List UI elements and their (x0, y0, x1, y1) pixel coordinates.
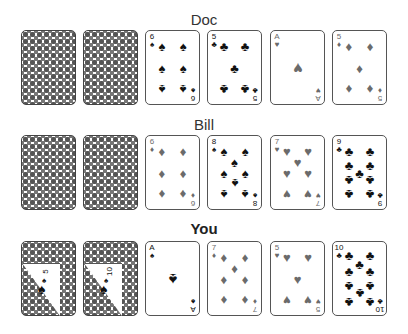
card-corner-index: A♠ (147, 244, 157, 260)
spade-icon: ♠ (176, 83, 190, 96)
spade-icon: ♠ (100, 281, 107, 297)
club-icon: ♣ (363, 144, 377, 157)
card-corner-index: A♠ (188, 297, 198, 313)
diamond-icon: ♦ (342, 83, 356, 96)
spade-icon: ♠ (238, 188, 252, 201)
diamond-icon: ♦ (342, 39, 356, 52)
heart-icon: ♥ (301, 188, 315, 201)
card-A-of-hearts[interactable]: A♥A♥♥ (270, 30, 325, 105)
card-rank: A (188, 305, 198, 313)
card-A-of-spades[interactable]: A♠A♠♠ (145, 241, 200, 316)
card-rank: 5 (41, 269, 50, 273)
hand-you: 5♠♠10♠♠A♠A♠♠7♦7♦♦♦♦♦♦♦♦5♥5♥♥♥♥♥♥10♣10♣♣♣… (0, 241, 408, 317)
card-rank: A (313, 94, 323, 102)
spade-icon: ♠ (217, 188, 231, 201)
diamond-icon: ♦ (176, 144, 190, 157)
spade-icon: ♠ (155, 83, 169, 96)
card-corner-index: A♥ (272, 33, 282, 49)
club-icon: ♣ (238, 83, 252, 96)
peeked-hole-card-1[interactable]: 5♠♠ (21, 241, 76, 316)
heart-icon: ♥ (313, 86, 323, 94)
diamond-icon: ♦ (238, 272, 252, 285)
heart-icon: ♥ (280, 188, 294, 201)
card-5-of-hearts[interactable]: 5♥5♥♥♥♥♥♥ (270, 241, 325, 316)
club-icon: ♣ (342, 295, 356, 308)
spade-icon: ♠ (155, 39, 169, 52)
diamond-icon: ♦ (353, 61, 367, 74)
spade-icon: ♠ (188, 297, 198, 305)
face-down-card-1[interactable] (21, 135, 76, 210)
heart-icon: ♥ (301, 250, 315, 263)
card-5-of-diamonds[interactable]: 5♦5♦♦♦♦♦♦ (332, 30, 387, 105)
club-icon: ♣ (342, 265, 356, 278)
heart-icon: ♥ (291, 61, 305, 74)
card-7-of-diamonds[interactable]: 7♦7♦♦♦♦♦♦♦♦ (207, 241, 262, 316)
club-icon: ♣ (342, 188, 356, 201)
hand-doc: 6♠6♠♠♠♠♠♠♠5♣5♣♣♣♣♣♣A♥A♥♥5♦5♦♦♦♦♦♦ (0, 30, 408, 106)
heart-icon: ♥ (301, 166, 315, 179)
face-down-card-1[interactable] (21, 30, 76, 105)
club-icon: ♣ (238, 39, 252, 52)
club-icon: ♣ (363, 295, 377, 308)
face-down-card-2[interactable] (83, 135, 138, 210)
diamond-icon: ♦ (155, 144, 169, 157)
heart-icon: ♥ (291, 272, 305, 285)
club-icon: ♣ (363, 173, 377, 186)
card-9-of-clubs[interactable]: 9♣9♣♣♣♣♣♣♣♣♣♣ (332, 135, 387, 210)
spade-icon: ♠ (166, 272, 180, 285)
diamond-icon: ♦ (176, 188, 190, 201)
spade-icon: ♠ (38, 281, 45, 297)
club-icon: ♣ (217, 83, 231, 96)
heart-icon: ♥ (280, 166, 294, 179)
spade-icon: ♠ (176, 39, 190, 52)
diamond-icon: ♦ (176, 166, 190, 179)
diamond-icon: ♦ (217, 272, 231, 285)
card-6-of-diamonds[interactable]: 6♦6♦♦♦♦♦♦♦ (145, 135, 200, 210)
peeked-hole-card-2[interactable]: 10♠♠ (83, 241, 138, 316)
diamond-icon: ♦ (363, 39, 377, 52)
heart-icon: ♥ (301, 294, 315, 307)
spade-icon: ♠ (147, 252, 157, 260)
hand-bill: 6♦6♦♦♦♦♦♦♦8♠8♠♠♠♠♠♠♠♠♠7♥7♥♥♥♥♥♥♥♥9♣9♣♣♣♣… (0, 135, 408, 211)
card-10-of-clubs[interactable]: 10♣10♣♣♣♣♣♣♣♣♣♣♣ (332, 241, 387, 316)
club-icon: ♣ (363, 188, 377, 201)
spade-icon: ♠ (155, 61, 169, 74)
diamond-icon: ♦ (155, 166, 169, 179)
card-8-of-spades[interactable]: 8♠8♠♠♠♠♠♠♠♠♠ (207, 135, 262, 210)
heart-icon: ♥ (280, 250, 294, 263)
face-down-card-2[interactable] (83, 30, 138, 105)
club-icon: ♣ (363, 265, 377, 278)
diamond-icon: ♦ (363, 83, 377, 96)
heart-icon: ♥ (272, 41, 282, 49)
spade-icon: ♠ (176, 61, 190, 74)
player-name-doc: Doc (0, 11, 408, 28)
diamond-icon: ♦ (155, 188, 169, 201)
player-name-you: You (0, 220, 408, 237)
card-rank: 10 (105, 267, 114, 276)
diamond-icon: ♦ (238, 294, 252, 307)
diamond-icon: ♦ (217, 294, 231, 307)
card-6-of-spades[interactable]: 6♠6♠♠♠♠♠♠♠ (145, 30, 200, 105)
card-7-of-hearts[interactable]: 7♥7♥♥♥♥♥♥♥♥ (270, 135, 325, 210)
club-icon: ♣ (217, 39, 231, 52)
player-name-bill: Bill (0, 116, 408, 133)
club-icon: ♣ (228, 61, 242, 74)
club-icon: ♣ (342, 144, 356, 157)
heart-icon: ♥ (280, 294, 294, 307)
card-5-of-clubs[interactable]: 5♣5♣♣♣♣♣♣ (207, 30, 262, 105)
card-corner-index: A♥ (313, 86, 323, 102)
club-icon: ♣ (342, 173, 356, 186)
